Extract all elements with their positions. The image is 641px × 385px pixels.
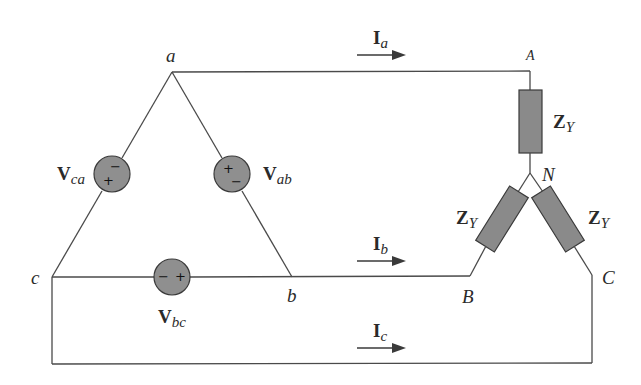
wire-c-to-C	[52, 363, 592, 364]
circuit-diagram: − + + − − + a c b A N B C Vca Vab Vbc Ia…	[0, 0, 641, 385]
vca-plus-sign: +	[103, 174, 114, 187]
node-label-b: b	[287, 286, 297, 305]
node-label-B: B	[462, 287, 474, 306]
node-label-a: a	[166, 46, 176, 65]
wire-zy-c-to-C	[574, 246, 592, 275]
impedance-zy-a	[519, 90, 542, 153]
wire-a-to-A	[172, 71, 530, 72]
label-ia: Ia	[373, 28, 388, 51]
arrow-right-icon	[357, 343, 406, 353]
wire-a-to-vca	[122, 72, 172, 158]
node-label-C: C	[602, 268, 615, 287]
arrow-right-icon	[357, 50, 406, 60]
arrow-right-icon	[357, 256, 406, 266]
node-label-c: c	[31, 268, 39, 287]
label-vbc: Vbc	[158, 307, 186, 330]
vab-minus-sign: −	[231, 175, 242, 188]
impedance-zy-c	[532, 186, 585, 252]
vca-minus-sign: −	[110, 160, 121, 173]
vbc-minus-sign: −	[158, 270, 169, 283]
node-label-A: A	[526, 49, 535, 63]
wire-N-to-zy-b	[518, 173, 530, 192]
wire-vbc-to-B	[190, 276, 470, 277]
label-vca: Vca	[57, 164, 85, 187]
circuit-drawing	[0, 0, 641, 385]
vbc-plus-sign: +	[175, 270, 186, 283]
wire-vab-to-b	[242, 191, 292, 277]
label-zy-a: ZY	[553, 112, 574, 135]
node-label-N: N	[542, 165, 555, 184]
label-ic: Ic	[373, 321, 387, 344]
wire-a-to-vab	[172, 72, 222, 158]
label-zy-b: ZY	[456, 208, 477, 231]
label-vab: Vab	[263, 164, 292, 187]
impedance-zy-b	[476, 186, 529, 252]
label-zy-c: ZY	[588, 208, 609, 231]
label-ib: Ib	[373, 234, 388, 257]
wire-vca-to-c	[52, 191, 102, 277]
wire-zy-b-to-B	[470, 246, 486, 276]
